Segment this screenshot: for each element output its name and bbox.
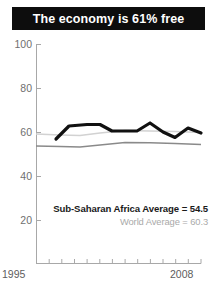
y-tick-label-40: 40 — [4, 171, 32, 181]
ssa-average-line — [36, 143, 201, 148]
chart-screenshot: The economy is 61% free — [0, 0, 212, 299]
x-tick-label-start: 1995 — [2, 269, 25, 280]
y-tick-label-60: 60 — [4, 127, 32, 137]
y-tick-marks — [37, 45, 42, 221]
y-tick-label-100: 100 — [4, 39, 32, 49]
x-tick-label-end: 2008 — [170, 269, 193, 280]
chart-legend: Sub-Saharan Africa Average = 54.5 World … — [36, 202, 212, 228]
legend-ssa-average: Sub-Saharan Africa Average = 54.5 — [36, 202, 208, 215]
title-banner: The economy is 61% free — [12, 7, 205, 30]
x-tick-marks — [37, 259, 202, 264]
y-tick-label-80: 80 — [4, 83, 32, 93]
chart-plot-area: 100 80 60 40 20 1995 2008 Sub-Saharan Af… — [0, 34, 212, 299]
line-chart-svg — [0, 34, 212, 299]
legend-world-average: World Average = 60.3 — [36, 215, 208, 228]
page-title: The economy is 61% free — [33, 12, 185, 26]
y-tick-label-20: 20 — [4, 215, 32, 225]
